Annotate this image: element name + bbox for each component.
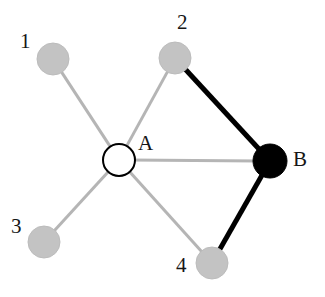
graph-node-2[interactable] <box>159 42 191 74</box>
graph-node-1[interactable] <box>37 43 69 75</box>
node-label-B: B <box>293 149 307 170</box>
node-label-A: A <box>138 133 153 154</box>
graph-node-3[interactable] <box>28 226 60 258</box>
graph-node-4[interactable] <box>196 247 228 279</box>
edge-2-B <box>183 66 262 152</box>
edge-layer <box>52 66 264 254</box>
edge-A-3 <box>52 169 111 234</box>
edge-A-B <box>131 160 258 161</box>
edge-A-4 <box>127 169 205 255</box>
node-label-3: 3 <box>11 216 22 237</box>
node-label-2: 2 <box>177 12 188 33</box>
edge-4-B <box>218 172 264 253</box>
graph-figure: 1234AB <box>0 0 325 297</box>
node-label-4: 4 <box>176 255 187 276</box>
node-label-1: 1 <box>20 31 31 52</box>
edge-A-1 <box>59 69 112 151</box>
graph-canvas <box>0 0 325 297</box>
graph-node-A[interactable] <box>103 144 135 176</box>
graph-node-B[interactable] <box>253 144 287 178</box>
